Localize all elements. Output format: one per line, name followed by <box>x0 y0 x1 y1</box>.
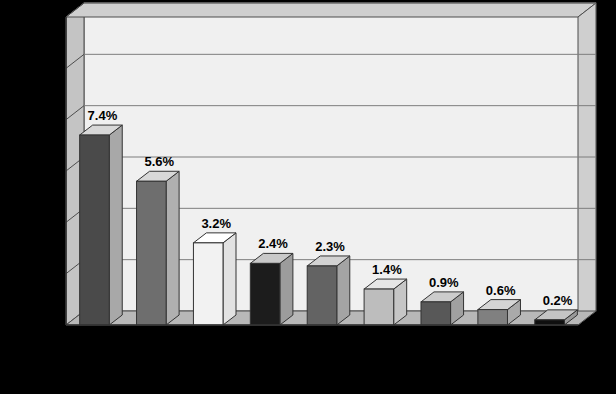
bar-front-face <box>250 263 280 325</box>
bar-germany <box>364 279 407 325</box>
bar-front-face <box>421 302 451 325</box>
category-label: China <box>83 331 119 345</box>
bar-front-face <box>193 243 223 325</box>
y-tick-label: 6 <box>51 164 58 179</box>
y-tick-label: 12 <box>44 10 58 25</box>
y-axis-title-line: Real GDP <box>5 150 58 162</box>
bar-side-face <box>109 125 122 325</box>
bar-china <box>80 125 123 325</box>
y-tick-label: 10 <box>44 61 58 76</box>
category-label: Russia <box>535 331 577 345</box>
x-axis-title-text: Country <box>316 363 364 377</box>
category-label: States <box>252 346 290 360</box>
x-axis-title: Country <box>316 363 364 377</box>
category-label: United <box>252 331 291 345</box>
bar-front-face <box>478 310 508 325</box>
y-tick-label: 2 <box>51 266 58 281</box>
right-band <box>578 3 596 325</box>
bar-india <box>137 171 180 325</box>
category-label: Germany <box>358 331 412 345</box>
bar-value-label: 3.2% <box>201 216 231 231</box>
bar-value-label: 0.2% <box>543 293 573 308</box>
bar-side-face <box>337 256 350 325</box>
bar-value-label: 7.4% <box>88 108 118 123</box>
bar-side-face <box>280 253 293 325</box>
category-label: India <box>143 331 173 345</box>
y-axis-title-line: (percent) <box>8 192 54 204</box>
bar-value-label: 5.6% <box>145 154 175 169</box>
category-label: Japan <box>424 331 460 345</box>
category-label: Kingdom <box>187 346 241 360</box>
y-axis-title-line: growth <box>12 164 50 176</box>
category-label: Greece <box>477 331 519 345</box>
y-axis-title-line: rates <box>17 178 45 190</box>
bar-value-label: 0.9% <box>429 275 459 290</box>
bar-value-label: 1.4% <box>372 262 402 277</box>
category-label: Canada <box>305 331 351 345</box>
bar-united-states <box>250 253 293 325</box>
category-label: United <box>195 331 234 345</box>
bar-value-label: 2.4% <box>258 236 288 251</box>
bar-value-label: 0.6% <box>486 283 516 298</box>
bar-side-face <box>166 171 179 325</box>
bar-united-kingdom <box>193 233 236 325</box>
chart-page: 024681012 ChinaIndiaUnitedKingdomUnitedS… <box>0 0 616 394</box>
top-band <box>66 3 596 17</box>
bar-front-face <box>137 181 167 325</box>
gdp-growth-bar-chart: 024681012 ChinaIndiaUnitedKingdomUnitedS… <box>0 0 616 394</box>
y-tick-label: 0 <box>51 318 58 333</box>
bar-front-face <box>364 289 394 325</box>
bar-value-label: 2.3% <box>315 239 345 254</box>
bar-side-face <box>223 233 236 325</box>
bar-front-face <box>80 135 110 325</box>
bar-canada <box>307 256 350 325</box>
y-tick-label: 8 <box>51 112 58 127</box>
bar-front-face <box>307 266 337 325</box>
bar-japan <box>421 292 464 325</box>
y-tick-label: 4 <box>51 215 59 230</box>
